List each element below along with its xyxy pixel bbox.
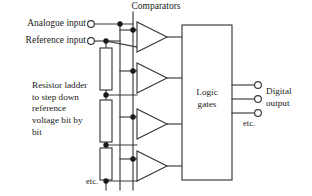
etc-ladder-label: etc. (86, 176, 104, 186)
logic-gates-label-line-2: gates (184, 99, 230, 111)
junction-dot-analogue-tap-2 (130, 68, 135, 73)
resistor-2 (100, 100, 112, 142)
resistor-ladder-label: Resistor ladder to step down reference v… (32, 80, 88, 138)
comparator-2 (137, 63, 167, 93)
analogue-input-label: Analogue input (0, 18, 86, 29)
digital-output-label-line-2: output (266, 98, 312, 110)
junction-dot-ladder-tap-2 (103, 142, 108, 147)
junction-dot-reference-ladder-top (103, 38, 108, 43)
junction-dot-analogue-tap-1 (130, 27, 135, 32)
logic-gates-label-line-1: Logic (184, 87, 230, 99)
junction-dot-analogue-bus-top (117, 21, 122, 26)
ladder-tap-wire-0 (106, 41, 137, 47)
digital-output-label-line-1: Digital (266, 86, 312, 98)
analogue-input-terminal (88, 21, 95, 28)
comparators-label: Comparators (108, 1, 204, 12)
junction-dot-ladder-tap-3 (103, 178, 108, 183)
comparator-4 (137, 151, 167, 181)
logic-gates-label: Logic gates (184, 87, 230, 111)
junction-dot-analogue-tap-4 (130, 156, 135, 161)
digital-output-terminal-1 (255, 82, 262, 89)
etc-output-label: etc. (243, 118, 263, 128)
digital-output-terminal-3 (255, 110, 262, 117)
reference-input-terminal (88, 38, 95, 45)
junction-dot-analogue-tap-3 (130, 114, 135, 119)
comparator-3 (137, 109, 167, 139)
comparator-1 (137, 22, 167, 52)
junction-dot-ladder-tap-1 (103, 92, 108, 97)
figure-canvas: Analogue input Reference input Comparato… (0, 0, 312, 196)
digital-output-terminal-2 (255, 96, 262, 103)
digital-output-label: Digital output (266, 86, 312, 110)
reference-input-label: Reference input (0, 35, 86, 46)
resistor-1 (100, 48, 112, 90)
